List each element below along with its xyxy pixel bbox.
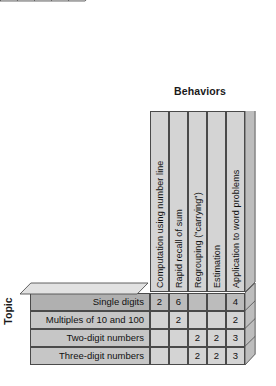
column-header-block: Computation using number lineRapid recal…: [150, 111, 245, 292]
data-cell[interactable]: 6: [169, 293, 188, 311]
row-header-label: Three-digit numbers: [30, 347, 150, 365]
column-header-1[interactable]: Computation using number line: [150, 111, 169, 292]
column-header-2[interactable]: Rapid recall of sum: [169, 111, 188, 292]
data-cell[interactable]: 2: [207, 329, 226, 347]
column-header-label: Computation using number line: [155, 161, 164, 288]
column-header-label: Regrouping ("carrying"): [193, 192, 202, 288]
data-cell[interactable]: 3: [226, 329, 245, 347]
column-header-5[interactable]: Application to word problems: [226, 111, 245, 292]
table-of-specifications-figure: Behaviors Topic Computation using number…: [0, 0, 276, 386]
table-row[interactable]: Three-digit numbers223: [30, 347, 245, 365]
data-cell[interactable]: 2: [226, 311, 245, 329]
column-header-label: Estimation: [212, 245, 221, 288]
data-cell[interactable]: [169, 347, 188, 365]
data-cell[interactable]: [150, 347, 169, 365]
data-cell[interactable]: [169, 329, 188, 347]
data-cell[interactable]: [150, 329, 169, 347]
matrix-grid: Single digits264Multiples of 10 and 1002…: [30, 293, 245, 365]
column-header-3[interactable]: Regrouping ("carrying"): [188, 111, 207, 292]
table-row[interactable]: Single digits264: [30, 293, 245, 311]
column-block-top-face: [0, 0, 95, 1]
row-header-label: Multiples of 10 and 100: [30, 311, 150, 329]
data-cell[interactable]: 3: [226, 347, 245, 365]
row-block-side-face: [245, 283, 257, 365]
column-header-label: Rapid recall of sum: [174, 209, 183, 288]
column-block-side-face: [245, 111, 256, 292]
row-axis-title: Topic: [2, 289, 14, 333]
data-cell[interactable]: [188, 311, 207, 329]
data-cell[interactable]: 2: [207, 347, 226, 365]
table-row[interactable]: Two-digit numbers223: [30, 329, 245, 347]
column-header-label: Application to word problems: [231, 170, 240, 288]
data-cell[interactable]: [188, 293, 207, 311]
data-cell[interactable]: 2: [150, 293, 169, 311]
data-cell[interactable]: 2: [188, 347, 207, 365]
column-header-4[interactable]: Estimation: [207, 111, 226, 292]
row-header-label: Two-digit numbers: [30, 329, 150, 347]
column-axis-title: Behaviors: [150, 85, 250, 97]
data-cell[interactable]: 4: [226, 293, 245, 311]
table-row[interactable]: Multiples of 10 and 10022: [30, 311, 245, 329]
data-cell[interactable]: 2: [188, 329, 207, 347]
row-block-top-face: [20, 283, 148, 294]
data-cell[interactable]: [207, 311, 226, 329]
row-header-label: Single digits: [30, 293, 150, 311]
data-cell[interactable]: [207, 293, 226, 311]
data-cell[interactable]: [150, 311, 169, 329]
data-cell[interactable]: 2: [169, 311, 188, 329]
